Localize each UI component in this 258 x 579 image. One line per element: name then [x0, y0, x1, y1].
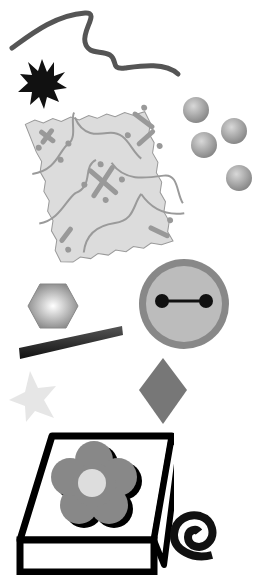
- star-shape: [8, 370, 58, 422]
- spheres-group: [180, 95, 255, 195]
- hexagon-shape: [27, 283, 79, 329]
- diamond-shape: [137, 357, 189, 425]
- bar-shape: [16, 326, 128, 362]
- patterned-tile-shape: [14, 94, 194, 269]
- flower-box-shape: [14, 430, 174, 575]
- spiral-shape: [168, 510, 220, 562]
- button-face-shape: [138, 258, 230, 350]
